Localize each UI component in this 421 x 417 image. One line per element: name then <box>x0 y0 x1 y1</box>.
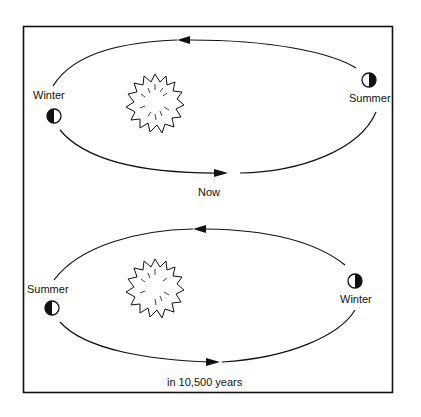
top-right-label: Summer <box>349 92 391 104</box>
earth-phase-icon <box>47 109 61 123</box>
sun-icon <box>126 74 184 133</box>
bottom-caption: in 10,500 years <box>167 376 242 388</box>
bottom-right-label: Winter <box>340 293 372 305</box>
sun-icon <box>126 259 184 318</box>
earth-phase-icon <box>348 274 362 288</box>
top-caption: Now <box>198 186 220 198</box>
bottom-orbit <box>54 229 355 362</box>
top-orbit <box>53 40 376 173</box>
earth-phase-icon <box>45 301 59 315</box>
arrow-right-icon <box>206 358 220 366</box>
arrow-right-icon <box>214 169 228 177</box>
frame-border <box>24 27 393 393</box>
arrow-left-icon <box>177 36 190 44</box>
bottom-left-label: Summer <box>27 283 69 295</box>
orbit-diagram <box>0 0 421 417</box>
earth-phase-icon <box>362 73 376 87</box>
top-left-label: Winter <box>33 89 65 101</box>
arrow-left-icon <box>193 225 206 233</box>
